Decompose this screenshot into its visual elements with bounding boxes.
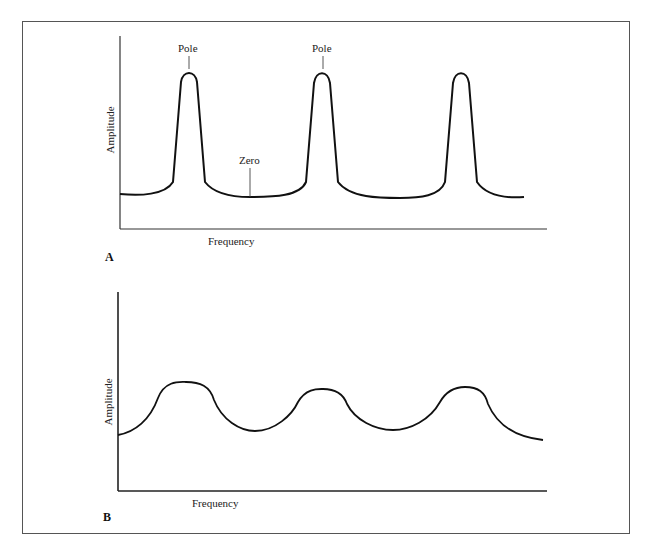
panel-b-y-axis-label: Amplitude xyxy=(102,372,114,432)
figure-graphics xyxy=(0,0,645,546)
panel-b-x-axis-label: Frequency xyxy=(192,497,238,509)
panel-b-axes xyxy=(118,292,547,491)
pole-label-2: Pole xyxy=(312,42,332,54)
zero-label: Zero xyxy=(239,154,260,166)
panel-b-letter: B xyxy=(103,510,111,525)
panel-a-y-axis-label: Amplitude xyxy=(104,100,116,160)
pole-label-1: Pole xyxy=(178,42,198,54)
panel-a-leader-lines xyxy=(189,56,323,197)
panel-a-letter: A xyxy=(105,250,114,265)
panel-b-curve xyxy=(118,382,543,440)
panel-a-x-axis-label: Frequency xyxy=(208,235,254,247)
panel-a-curve xyxy=(120,73,524,198)
